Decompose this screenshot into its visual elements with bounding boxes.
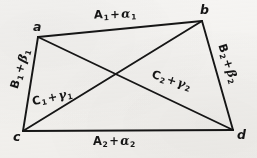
label-operator: + xyxy=(108,134,120,148)
edge-c-d xyxy=(23,130,233,131)
label-base: A xyxy=(93,134,102,148)
diagonal-a-d xyxy=(38,37,233,130)
edge-a-b xyxy=(38,21,202,37)
label-greek: α xyxy=(120,134,129,148)
vertex-label-b: b xyxy=(200,4,209,17)
geometry-figure: a b c d A1+α1 A2+α2 B1+β1 B2+β2 C1+γ1 C2… xyxy=(0,0,257,158)
label-operator: + xyxy=(109,7,122,21)
label-greek-subscript: 1 xyxy=(131,13,137,22)
edge-label-top-ab: A1+α1 xyxy=(94,7,137,22)
label-base: A xyxy=(94,7,103,21)
edge-label-bottom-cd: A2+α2 xyxy=(93,135,136,149)
label-greek: α xyxy=(121,7,131,21)
vertex-label-a: a xyxy=(33,21,41,34)
vertex-label-c: c xyxy=(13,131,20,144)
vertex-label-d: d xyxy=(237,129,246,142)
label-greek-subscript: 2 xyxy=(130,140,136,149)
